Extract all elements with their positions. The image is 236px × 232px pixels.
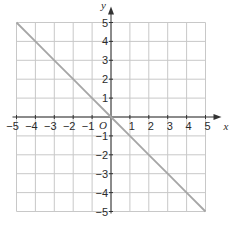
axes: [13, 7, 222, 214]
x-tick-label: 5: [204, 120, 210, 132]
x-tick-label: −3: [44, 120, 57, 132]
x-tick-label: −5: [6, 120, 19, 132]
y-axis-arrow-icon: [108, 7, 114, 15]
x-tick-label: −1: [82, 120, 95, 132]
x-tick-label: −2: [63, 120, 76, 132]
x-tick-label: 3: [167, 120, 173, 132]
y-tick-label: 2: [102, 73, 108, 85]
y-tick-label: −2: [95, 149, 108, 161]
y-tick-label: −1: [95, 130, 108, 142]
x-tick-label: −4: [25, 120, 38, 132]
x-axis-label: x: [223, 120, 229, 132]
y-tick-label: 4: [102, 35, 108, 47]
x-tick-label: 4: [186, 120, 192, 132]
y-axis-label: y: [100, 0, 106, 11]
y-tick-label: −3: [95, 168, 108, 180]
x-tick-label: 1: [129, 120, 135, 132]
y-tick-label: −4: [95, 187, 108, 199]
tick-labels: −5−4−3−2−11234554321−1−2−3−4−5Oxy: [6, 0, 228, 218]
x-axis-arrow-icon: [214, 114, 222, 120]
y-tick-label: −5: [95, 206, 108, 218]
y-tick-label: 1: [102, 92, 108, 104]
y-tick-label: 5: [102, 17, 108, 29]
x-tick-label: 2: [148, 120, 154, 132]
origin-label: O: [99, 119, 107, 131]
y-tick-label: 3: [102, 54, 108, 66]
coordinate-grid-chart: −5−4−3−2−11234554321−1−2−3−4−5Oxy: [0, 0, 236, 232]
